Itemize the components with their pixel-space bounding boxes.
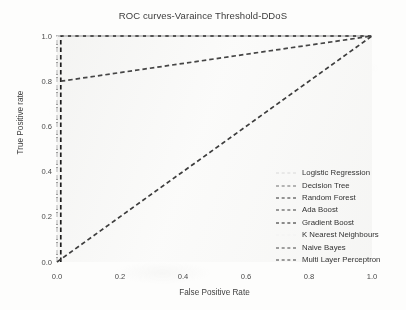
y-tick-label: 1.0 [30, 32, 52, 41]
legend-item-label: Logistic Regression [302, 169, 370, 177]
y-tick-label: 0.6 [30, 122, 52, 131]
legend-item-label: Naive Bayes [302, 244, 346, 252]
legend-item-label: Multi Layer Perceptron [302, 256, 380, 264]
x-tick-label: 0.2 [108, 272, 132, 281]
legend-item[interactable]: Ada Boost [276, 204, 380, 216]
legend-item-label: Random Forest [302, 194, 356, 202]
x-tick-label: 0.8 [297, 272, 321, 281]
roc-curve [61, 36, 372, 81]
x-tick-label: 0.4 [171, 272, 195, 281]
legend-line-icon [276, 195, 296, 201]
legend-line-icon [276, 170, 296, 176]
y-axis-label: True Positive rate [16, 63, 25, 183]
legend-item[interactable]: Decision Tree [276, 179, 380, 191]
legend-line-icon [276, 183, 296, 189]
y-tick-label: 0.0 [30, 258, 52, 267]
legend-item[interactable]: Random Forest [276, 192, 380, 204]
legend-item[interactable]: Gradient Boost [276, 217, 380, 229]
x-tick-label: 0.6 [234, 272, 258, 281]
chart-legend: Logistic RegressionDecision TreeRandom F… [276, 167, 380, 266]
legend-item[interactable]: K Nearest Neighbours [276, 229, 380, 241]
x-tick-label: 1.0 [360, 272, 384, 281]
legend-item-label: K Nearest Neighbours [302, 231, 379, 239]
chart-title: ROC curves-Varaince Threshold-DDoS [0, 10, 406, 21]
y-tick-label: 0.2 [30, 212, 52, 221]
legend-item[interactable]: Naive Bayes [276, 241, 380, 253]
legend-line-icon [276, 207, 296, 213]
legend-line-icon [276, 220, 296, 226]
x-axis-label: False Positive Rate [57, 288, 372, 297]
legend-line-icon [276, 245, 296, 251]
legend-line-icon [276, 257, 296, 263]
legend-item-label: Gradient Boost [302, 219, 354, 227]
legend-line-icon [276, 232, 296, 238]
legend-item-label: Decision Tree [302, 182, 350, 190]
legend-item[interactable]: Multi Layer Perceptron [276, 254, 380, 266]
y-tick-label: 0.8 [30, 77, 52, 86]
legend-item[interactable]: Logistic Regression [276, 167, 380, 179]
roc-chart-figure: ROC curves-Varaince Threshold-DDoS True … [0, 0, 406, 310]
legend-item-label: Ada Boost [302, 206, 338, 214]
y-tick-label: 0.4 [30, 167, 52, 176]
x-tick-label: 0.0 [45, 272, 69, 281]
